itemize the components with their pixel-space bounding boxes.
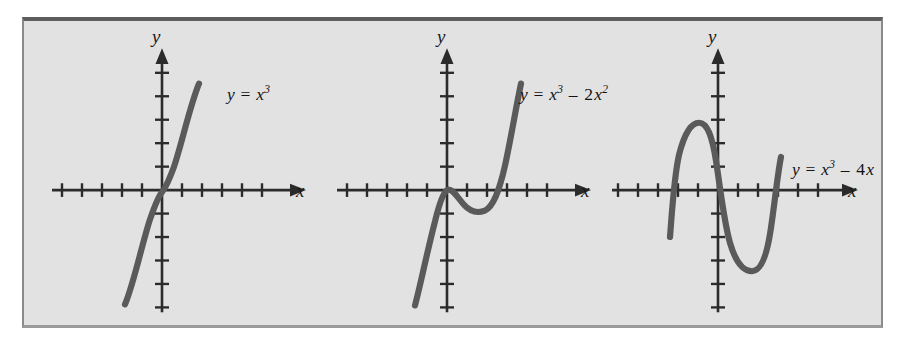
- eq2-operator: –: [568, 84, 579, 104]
- eq1-lhs: y: [227, 84, 235, 104]
- eq2-term1-base: x: [549, 84, 557, 104]
- figure-panel: x y: [22, 17, 883, 328]
- eq2-term2-exponent: 2: [602, 83, 608, 95]
- eq2-term1-exponent: 3: [557, 83, 563, 95]
- plot-2-y-axis-label: y: [435, 26, 446, 47]
- plot-1-svg: x y: [24, 21, 324, 325]
- plot-2-x-axis-label: x: [580, 180, 590, 201]
- eq3-term1-base: x: [821, 159, 829, 179]
- eq3-term2-coefficient: 4: [855, 159, 866, 179]
- eq3-term1-exponent: 3: [829, 158, 835, 170]
- eq1-equals: =: [240, 84, 252, 104]
- eq2-lhs: y: [520, 84, 528, 104]
- figure-root: x y: [0, 0, 905, 347]
- equation-label-1: y = x3: [227, 83, 270, 105]
- plot-1-y-axis-arrow: [156, 48, 169, 64]
- eq3-operator: –: [840, 159, 851, 179]
- eq2-term2-base: x: [594, 84, 602, 104]
- eq3-term2-base: x: [866, 159, 874, 179]
- eq2-term2-coefficient: 2: [583, 84, 594, 104]
- plot-3-y-axis-label: y: [706, 26, 717, 47]
- plot-panel-1: x y: [24, 21, 324, 325]
- eq3-lhs: y: [792, 159, 800, 179]
- plot-panel-2: x y: [309, 21, 609, 325]
- plot-3-y-axis-arrow: [712, 48, 725, 64]
- plot-3-curve: [670, 123, 781, 272]
- plot-1-x-axis-label: x: [295, 180, 305, 201]
- eq2-equals: =: [533, 84, 545, 104]
- eq3-equals: =: [805, 159, 817, 179]
- plot-1-y-axis-label: y: [150, 26, 161, 47]
- equation-label-2: y = x3 – 2x2: [520, 83, 608, 105]
- eq1-exponent: 3: [264, 83, 270, 95]
- eq1-base: x: [256, 84, 264, 104]
- equation-label-3: y = x3 – 4x: [792, 158, 874, 180]
- plot-3-x-axis-label: x: [847, 180, 857, 201]
- plot-2-svg: x y: [309, 21, 609, 325]
- plot-2-y-axis-arrow: [441, 48, 454, 64]
